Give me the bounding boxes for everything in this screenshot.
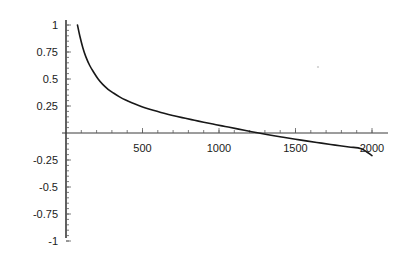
y-tick-label: -0.75 [33,208,58,220]
y-tick-label: -0.5 [39,181,58,193]
plot-background [0,0,402,253]
x-tick-label: 500 [133,142,151,154]
x-tick-label: 1000 [207,142,231,154]
artifact-speck [317,66,319,68]
y-tick-label: 0.75 [37,46,58,58]
chart-canvas: 500100015002000 10.750.50.25-0.25-0.5-0.… [0,0,402,253]
y-tick-label: 0.25 [37,100,58,112]
x-tick-label: 1500 [283,142,307,154]
plot-figure: 500100015002000 10.750.50.25-0.25-0.5-0.… [0,0,402,253]
y-tick-label: 1 [52,19,58,31]
y-tick-label: 0.5 [43,73,58,85]
y-tick-label: -1 [48,235,58,247]
y-tick-label: -0.25 [33,154,58,166]
x-tick-label: 2000 [360,142,384,154]
